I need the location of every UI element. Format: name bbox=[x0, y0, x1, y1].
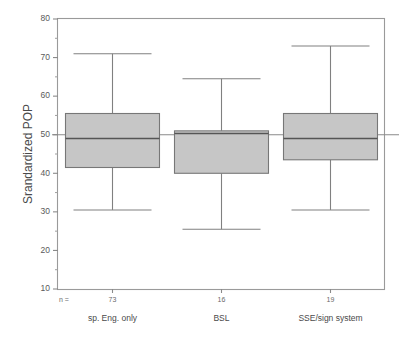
chart-canvas: Srandardized POP 8070605040302010 731619… bbox=[0, 0, 404, 342]
box-plot-figure: Srandardized POP 8070605040302010 731619… bbox=[0, 0, 404, 342]
y-tick-label: 60 bbox=[41, 90, 51, 100]
y-tick-label: 80 bbox=[41, 13, 51, 23]
y-tick-label: 50 bbox=[41, 129, 51, 139]
x-category-label: BSL bbox=[213, 313, 229, 323]
iqr-box bbox=[284, 114, 378, 160]
y-tick-label: 10 bbox=[41, 283, 51, 293]
x-category-label: sp. Eng. only bbox=[88, 313, 138, 323]
y-tick-label: 70 bbox=[41, 52, 51, 62]
y-tick-label: 30 bbox=[41, 206, 51, 216]
n-value: 73 bbox=[109, 296, 117, 303]
x-axis-category-labels: sp. Eng. onlyBSLSSE/sign system bbox=[88, 313, 363, 323]
y-axis-title: Srandardized POP bbox=[21, 104, 35, 204]
y-tick-label: 20 bbox=[41, 245, 51, 255]
iqr-box bbox=[175, 131, 269, 173]
n-row-label: n = bbox=[59, 296, 69, 303]
x-category-label: SSE/sign system bbox=[298, 313, 362, 323]
iqr-box bbox=[66, 114, 160, 168]
n-value: 16 bbox=[218, 296, 226, 303]
n-value: 19 bbox=[327, 296, 335, 303]
y-tick-label: 40 bbox=[41, 168, 51, 178]
